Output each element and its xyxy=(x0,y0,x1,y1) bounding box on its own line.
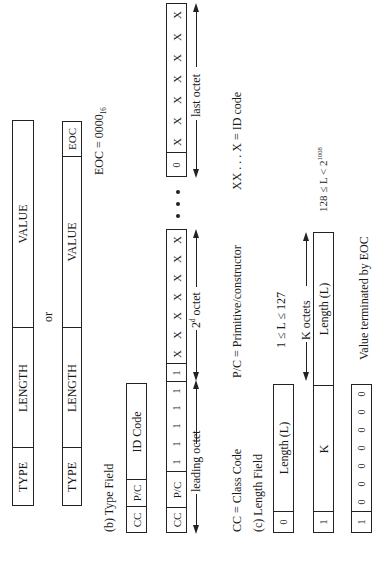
bit-cell: X xyxy=(167,230,186,249)
bit: 1 xyxy=(172,406,182,411)
length-label: Length (L) xyxy=(318,283,330,335)
second-octet-num: 2 xyxy=(189,322,203,328)
arrow-up-icon xyxy=(193,380,199,389)
bit: 0 xyxy=(357,392,367,397)
arrow-up-icon xyxy=(193,3,199,12)
id-code-label: ID Code xyxy=(131,411,143,452)
tlv-row-definite: VALUE LENGTH TYPE xyxy=(12,120,34,506)
bit-cell: 1 xyxy=(167,363,186,381)
bit-cell: X xyxy=(167,287,186,306)
legend-xx: XX . . . X = ID code xyxy=(231,92,243,190)
last-octet-line xyxy=(196,7,197,67)
bit-cell: X xyxy=(167,249,186,268)
ellipsis-dot xyxy=(176,190,180,194)
bit: 1 xyxy=(357,520,367,525)
bit: 0 xyxy=(357,428,367,433)
bit: X xyxy=(171,274,182,282)
bit: 1 xyxy=(319,520,329,525)
second-octet-label: 2d octet xyxy=(190,292,202,328)
arrow-down-icon xyxy=(193,525,199,534)
length-cell: Length (L) xyxy=(314,233,333,385)
length-cell: Length (L) xyxy=(274,385,293,511)
leading-octet-label: leading octet xyxy=(190,430,202,492)
second-octet-word: octet xyxy=(189,292,203,318)
pc-label: P/C xyxy=(131,485,142,502)
bit: 1 xyxy=(172,460,182,465)
legend-cc: CC = Class Code xyxy=(231,449,243,532)
bit-cell: 1 xyxy=(352,511,371,532)
length-label: LENGTH xyxy=(66,364,78,412)
bit: X xyxy=(171,96,182,104)
k-octets-label: K octets xyxy=(300,300,312,340)
second-octet-sup: d xyxy=(189,318,197,322)
arrow-down-icon xyxy=(303,372,309,381)
bit-cell: 1 xyxy=(167,435,186,453)
value-cell: VALUE xyxy=(63,156,81,327)
pc-label: P/C xyxy=(171,481,182,498)
arrow-down-icon xyxy=(193,169,199,178)
value-cell: VALUE xyxy=(13,121,33,327)
bit: 0 xyxy=(357,410,367,415)
length-cell: LENGTH xyxy=(13,327,33,447)
cc-cell: CC xyxy=(167,507,186,532)
bit-cell: 1 xyxy=(167,399,186,417)
value-label: VALUE xyxy=(17,204,29,243)
long-range: 128 ≤ L < 21008 xyxy=(317,147,329,212)
bit: X xyxy=(171,54,182,62)
short-range: 1 ≤ L ≤ 127 xyxy=(275,292,287,348)
bit-cell: 0 xyxy=(352,493,371,511)
bit-cell: X xyxy=(167,325,186,344)
bit-cell: X xyxy=(167,26,186,47)
bit-cell: 0 xyxy=(352,475,371,493)
bit: 0 xyxy=(357,482,367,487)
id-code-cell: ID Code xyxy=(127,384,146,479)
type-label: TYPE xyxy=(66,462,78,492)
value-label: VALUE xyxy=(66,222,78,261)
cc-label: CC xyxy=(131,512,142,527)
bit: X xyxy=(171,33,182,41)
legend-pc: P/C = Primitive/constructor xyxy=(231,245,243,378)
long-range-text: 128 ≤ L < 2 xyxy=(317,160,329,212)
bit-cell: 0 xyxy=(352,439,371,457)
arrow-up-icon xyxy=(303,232,309,241)
arrow-up-icon xyxy=(193,229,199,238)
bit: X xyxy=(171,350,182,358)
bit-cell: X xyxy=(167,306,186,325)
length-label: Length (L) xyxy=(278,422,290,474)
k-cell: K xyxy=(314,385,333,511)
bit: X xyxy=(171,117,182,125)
type-cell: TYPE xyxy=(13,447,33,505)
bit: X xyxy=(171,11,182,19)
bit-cell: 0 xyxy=(352,403,371,421)
bit: 1 xyxy=(172,424,182,429)
bit-cell: X xyxy=(167,344,186,363)
eoc-cell: EOC xyxy=(63,122,81,156)
eoc-definition-sub: 16 xyxy=(100,107,108,114)
eoc-label: EOC xyxy=(67,128,78,150)
bit-cell: X xyxy=(167,47,186,68)
ellipsis-dot xyxy=(176,202,180,206)
leading-octet-line xyxy=(196,494,197,528)
type-label: TYPE xyxy=(17,462,29,492)
or-label: or xyxy=(42,312,54,322)
bit-cell: 1 xyxy=(167,453,186,471)
bit: X xyxy=(171,255,182,263)
bit-cell: 0 xyxy=(167,152,186,176)
bit: 0 xyxy=(279,520,289,525)
bit-cell: X xyxy=(167,131,186,152)
arrow-down-icon xyxy=(193,372,199,381)
bit: 1 xyxy=(172,442,182,447)
bit-cell: 0 xyxy=(274,511,293,532)
type-cell: TYPE xyxy=(63,447,81,505)
bit: X xyxy=(171,236,182,244)
bit-cell: X xyxy=(167,268,186,287)
type-field-title: (b) Type Field xyxy=(103,464,115,532)
second-octet-line xyxy=(196,330,197,376)
type-field-short: ID Code P/C CC xyxy=(126,383,147,533)
bit-cell: X xyxy=(167,89,186,110)
length-field-title: (c) Length Field xyxy=(252,454,264,532)
length-indefinite-form: 0 0 0 0 0 0 0 1 xyxy=(351,384,372,533)
k-octets-line xyxy=(306,236,307,286)
last-octet-label: last octet xyxy=(190,74,202,117)
last-octet-line xyxy=(196,120,197,172)
